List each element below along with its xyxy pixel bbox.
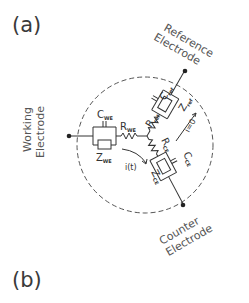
- reference-current-label: i=0: [183, 117, 198, 134]
- electrochemical-cell-circuit-diagram: CWE ZWE RWE Rref Cref Zref RCE CCE ZCE i…: [0, 0, 249, 303]
- r-we-label: RWE: [120, 121, 136, 133]
- reference-electrode-label: Reference Electrode: [152, 19, 217, 71]
- working-electrode-label: Working Electrode: [21, 106, 47, 158]
- reference-electrode-terminal: [183, 69, 188, 74]
- r-ce-label: RCE: [158, 136, 175, 155]
- r-ce-resistor: [146, 138, 159, 155]
- counter-electrode-label: Counter Electrode: [157, 210, 215, 259]
- working-current-label: i(t): [125, 163, 137, 172]
- c-ref-label: Cref: [157, 83, 175, 103]
- z-we-label: ZWE: [96, 152, 112, 164]
- svg-text:Electrode: Electrode: [34, 106, 47, 158]
- c-we-z-we-parallel: [93, 121, 116, 149]
- counter-electrode-terminal: [181, 203, 186, 208]
- r-ref-label: Rref: [143, 110, 161, 130]
- svg-text:Working: Working: [21, 107, 34, 152]
- c-we-label: CWE: [97, 109, 113, 121]
- r-we-resistor: [121, 133, 137, 139]
- working-electrode-terminal: [67, 134, 72, 139]
- z-ref-label: Zref: [176, 94, 194, 114]
- c-ce-label: CCE: [180, 150, 197, 169]
